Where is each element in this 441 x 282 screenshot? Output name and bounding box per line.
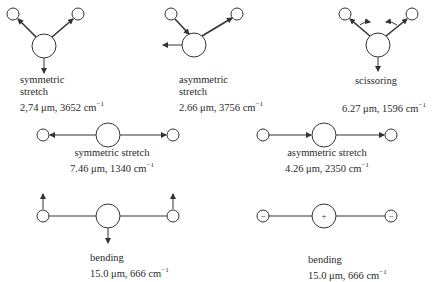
label-h2o-symmetric-stretch: symmetric stretch 2,74 μm, 3652 cm−1 [20, 74, 104, 114]
label-co2-symmetric-stretch: symmetric stretch 7.46 μm, 1340 cm−1 [70, 147, 154, 175]
mode-values: 7.46 μm, 1340 cm−1 [70, 159, 154, 175]
mode-name-line2: stretch [179, 86, 263, 98]
h2o-scissoring-molecule [339, 8, 418, 71]
label-h2o-scissoring-values: 6.27 μm, 1596 cm−1 [342, 99, 426, 115]
label-h2o-asymmetric-stretch: asymmetric stretch 2.66 μm, 3756 cm−1 [179, 74, 263, 114]
mode-name-line1: symmetric [20, 74, 104, 86]
mode-values: 15.0 μm, 666 cm−1 [308, 266, 387, 282]
mode-values: 2.66 μm, 3756 cm−1 [179, 98, 263, 114]
h2o-asymmetric-stretch-molecule [163, 8, 243, 57]
h2o-symmetric-stretch-molecule [7, 8, 84, 73]
co2-asymmetric-stretch-molecule [257, 123, 397, 147]
label-co2-bending: bending 15.0 μm, 666 cm−1 [90, 252, 169, 280]
plus-charge-center: + [321, 211, 326, 221]
minus-charge-right: − [388, 211, 393, 221]
co2-symmetric-stretch-molecule [37, 123, 179, 147]
mode-values: 15.0 μm, 666 cm−1 [90, 264, 169, 280]
label-co2-asymmetric-stretch: asymmetric stretch 4.26 μm, 2350 cm−1 [285, 147, 369, 175]
co2-bending-charge-molecule [257, 204, 397, 228]
mode-values: 4.26 μm, 2350 cm−1 [285, 159, 369, 175]
co2-bending-molecule [37, 194, 179, 243]
mode-name-line2: stretch [20, 86, 104, 98]
minus-charge-left: − [260, 211, 265, 221]
mode-name-line1: asymmetric [179, 74, 263, 86]
mode-values: 2,74 μm, 3652 cm−1 [20, 98, 104, 114]
label-h2o-scissoring-name: scissoring [355, 75, 397, 87]
label-co2-bending-charges: bending 15.0 μm, 666 cm−1 [308, 254, 387, 282]
